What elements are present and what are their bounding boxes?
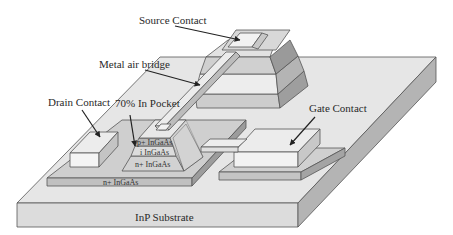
i-layer-label: i InGaAs: [140, 148, 169, 157]
source-contact-arrow: [175, 26, 240, 40]
substrate-label: InP Substrate: [135, 211, 194, 223]
metal-air-bridge-label: Metal air bridge: [99, 58, 170, 70]
source-contact-label: Source Contact: [139, 14, 207, 26]
n-base-label: n+ InGaAs: [103, 178, 138, 187]
drain-contact-label: Drain Contact: [48, 96, 110, 108]
pocket-label: 70% In Pocket: [115, 97, 180, 109]
gate-contact-label: Gate Contact: [309, 102, 367, 114]
p-layer-label: p+ InGaAs: [137, 138, 172, 147]
device-diagram: Source Contact Metal air bridge Drain Co…: [0, 0, 453, 235]
n-layer-label: n+ InGaAs: [135, 160, 170, 169]
